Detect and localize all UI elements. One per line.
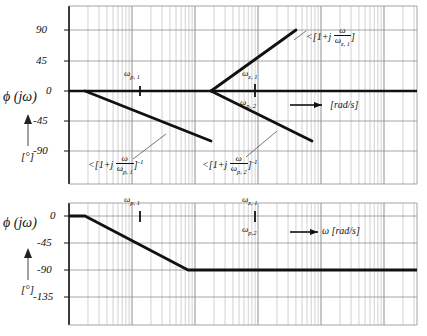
bottom-yaxis-title: ϕ (jω) (3, 215, 37, 231)
top-xaxis-unit: [rad/s] (330, 99, 358, 110)
omega-subscript: z, 1 (248, 199, 257, 206)
top-ytick-label-0: 0 (46, 84, 52, 96)
bottom-xaxis-unit: ω [rad/s] (322, 225, 360, 236)
annot-denominator: ωz, 1 (334, 35, 351, 47)
top-tick-label-wp1: ωp, 1 (124, 68, 140, 80)
omega-subscript: p, 2 (246, 102, 256, 109)
annot-numerator: ω (230, 154, 248, 163)
bode-phase-figure: 90 45 0 -45 -90 ϕ (jω) [°] ωp, 1 ωz, 1 ω… (0, 0, 427, 336)
bottom-tick-label-wp2: ωp,2 (242, 224, 256, 236)
omega-subscript: p, 1 (130, 199, 140, 206)
top-tick-label-wp2: ωp, 2 (240, 97, 256, 109)
bottom-ytick-label-minus45: -45 (37, 236, 52, 248)
top-ytick-label-45: 45 (36, 54, 47, 66)
annot-denominator: ωp, 2 (230, 163, 248, 175)
annot-exponent: -1 (138, 158, 144, 166)
annotation-zero1: <[1+j ω ωz, 1 ] (306, 27, 355, 48)
top-ytick-label-minus90: -90 (33, 144, 48, 156)
annot-numerator: ω (334, 26, 351, 35)
top-ytick-label-90: 90 (36, 23, 47, 35)
annotation-pole1: <[1+j ω ωp, 1 ]-1 (88, 155, 144, 176)
omega-subscript: p, 1 (130, 73, 140, 80)
annot-fraction: ω ωp, 1 (116, 154, 134, 175)
annot-numerator: ω (116, 154, 134, 163)
bottom-yaxis-unit: [°] (21, 283, 34, 295)
bottom-tick-label-wp1: ωp, 1 (124, 194, 140, 206)
annot-den-sub: z, 1 (341, 40, 350, 47)
top-ytick-label-minus45: -45 (33, 114, 48, 126)
annot-prefix: <[1+j (202, 159, 227, 170)
bottom-ytick-label-minus90: -90 (37, 263, 52, 275)
bottom-tick-label-wz1: ωz, 1 (242, 194, 257, 206)
omega-subscript: z, 1 (248, 73, 257, 80)
omega-subscript: p,2 (248, 229, 256, 236)
annot-exponent: -1 (252, 158, 258, 166)
annot-fraction: ω ωp, 2 (230, 154, 248, 175)
annotation-pole2: <[1+j ω ωp, 2 ]-1 (202, 155, 258, 176)
annot-prefix: <[1+j (88, 159, 113, 170)
annot-prefix: <[1+j (306, 31, 331, 42)
top-yaxis-unit: [°] (21, 150, 34, 162)
annot-suffix: ] (351, 31, 355, 42)
bottom-ytick-label-minus135: -135 (33, 290, 53, 302)
top-yaxis-title: ϕ (jω) (3, 89, 37, 105)
annot-den-sub: p, 2 (237, 168, 247, 175)
annot-fraction: ω ωz, 1 (334, 26, 351, 47)
annot-denominator: ωp, 1 (116, 163, 134, 175)
bottom-ytick-label-0: 0 (50, 209, 56, 221)
top-tick-label-wz1: ωz, 1 (242, 68, 257, 80)
annot-den-sub: p, 1 (123, 168, 133, 175)
